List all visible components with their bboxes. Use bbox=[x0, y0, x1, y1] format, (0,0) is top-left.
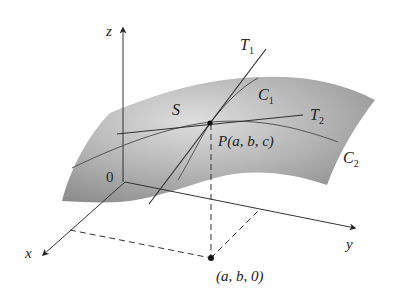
x-axis-label: x bbox=[24, 245, 32, 261]
y-axis bbox=[125, 182, 355, 228]
origin-label: 0 bbox=[106, 169, 114, 185]
y-axis-label: y bbox=[344, 236, 353, 252]
z-axis-label: z bbox=[105, 23, 112, 39]
point-p bbox=[207, 120, 212, 125]
curve2-label: C2 bbox=[343, 149, 359, 169]
point-base-label: (a, b, 0) bbox=[216, 268, 264, 285]
dashed-to-x-axis bbox=[70, 230, 211, 258]
point-base bbox=[208, 255, 214, 261]
point-p-label: P(a, b, c) bbox=[217, 133, 274, 150]
diagram-canvas: z x y 0 S T1 T2 C1 C2 P(a, b, c) (a, b, … bbox=[0, 0, 395, 298]
dashed-to-y-axis bbox=[211, 209, 260, 258]
tangent1-label: T1 bbox=[240, 36, 254, 56]
surface-label: S bbox=[172, 101, 180, 118]
